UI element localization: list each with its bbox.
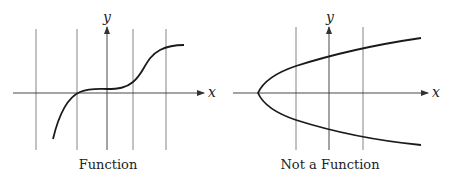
y-axis-label: y (102, 9, 112, 25)
vertical-test-lines (296, 27, 363, 150)
x-axis-label: x (208, 84, 216, 100)
function-graph: x y Function (13, 9, 216, 172)
function-curve (53, 45, 184, 139)
parabola-curve (258, 38, 421, 145)
function-caption: Function (79, 157, 138, 172)
x-axis-label: x (432, 84, 440, 100)
vertical-line-test-figure: x y Function x y Not a Function (0, 0, 451, 180)
not-a-function-caption: Not a Function (280, 157, 380, 172)
y-axis-label: y (325, 9, 335, 25)
not-a-function-graph: x y Not a Function (233, 9, 440, 172)
